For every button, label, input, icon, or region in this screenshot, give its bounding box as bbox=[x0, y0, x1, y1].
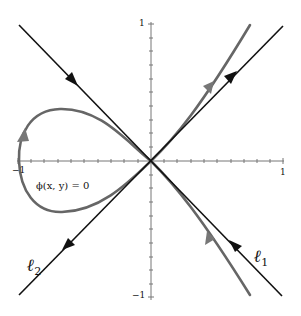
line-label-l1-sub: 1 bbox=[261, 256, 268, 269]
curve-arrows bbox=[17, 81, 215, 245]
arrow-up-right-icon bbox=[224, 71, 237, 84]
arrow-up-left-icon bbox=[229, 240, 242, 252]
curve-branch-lower bbox=[151, 161, 250, 295]
y-tick-label-pos: 1 bbox=[139, 18, 145, 28]
line-label-l2: ℓ2 bbox=[27, 255, 41, 278]
x-tick-label-neg: −1 bbox=[12, 165, 25, 175]
curve-phi bbox=[19, 25, 250, 295]
line-label-l2-sub: 2 bbox=[34, 265, 41, 278]
x-tick-label-pos: 1 bbox=[280, 167, 286, 177]
phase-portrait-figure: 1 −1 1 −1 ϕ(x, y) = 0 ℓ1 ℓ2 bbox=[0, 0, 301, 316]
curve-label: ϕ(x, y) = 0 bbox=[36, 180, 89, 191]
line-label-l1: ℓ1 bbox=[254, 246, 268, 269]
y-tick-label-neg: −1 bbox=[132, 290, 145, 300]
curve-branch-upper bbox=[151, 25, 250, 161]
arrow-up-icon bbox=[17, 128, 29, 142]
